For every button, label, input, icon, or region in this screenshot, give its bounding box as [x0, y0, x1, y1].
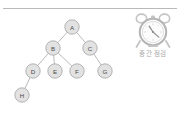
tree-node-label: D	[31, 68, 36, 75]
tree-edge-a-b	[58, 32, 67, 42]
tree-node-label: E	[53, 68, 57, 75]
tree-node-b[interactable]: B	[46, 41, 60, 55]
tree-node-label: B	[51, 45, 55, 52]
tree-node-a[interactable]: A	[65, 20, 79, 34]
tree-node-label: F	[75, 68, 79, 75]
tree-edge-b-e	[54, 55, 55, 64]
tree-node-d[interactable]: D	[26, 64, 40, 78]
tree-diagram: ABCDEFGH	[0, 0, 128, 115]
alarm-clock-svg	[128, 11, 178, 50]
checkpoint-caption: 중간 점검	[128, 49, 178, 58]
tree-edge-a-c	[77, 32, 86, 42]
tree-node-label: G	[103, 68, 108, 75]
tree-edge-c-g	[94, 54, 101, 65]
checkpoint-callout: 중간 점검	[128, 11, 178, 65]
tree-node-label: H	[20, 92, 24, 99]
tree-edge-b-d	[38, 53, 49, 65]
slide-canvas: ABCDEFGH	[0, 0, 180, 115]
tree-edge-b-f	[58, 53, 72, 66]
tree-node-e[interactable]: E	[48, 64, 62, 78]
tree-svg: ABCDEFGH	[0, 0, 128, 115]
tree-node-c[interactable]: C	[83, 41, 97, 55]
tree-edge-d-h	[25, 78, 30, 89]
tree-nodes-group: ABCDEFGH	[15, 20, 112, 102]
tree-node-h[interactable]: H	[15, 88, 29, 102]
tree-node-f[interactable]: F	[70, 64, 84, 78]
alarm-clock-icon	[128, 11, 178, 50]
tree-node-label: C	[88, 45, 93, 52]
tree-node-g[interactable]: G	[98, 64, 112, 78]
